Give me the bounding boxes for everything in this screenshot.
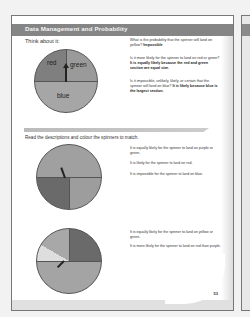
page-title: Data Management and Probability xyxy=(25,25,127,32)
statement: It is impossible for the spinner to land… xyxy=(130,172,222,177)
question-1: What is the probability that the spinner… xyxy=(130,38,222,48)
page-footer xyxy=(12,300,233,310)
spinner-to-colour-2[interactable] xyxy=(36,228,102,294)
spinner-to-colour-1[interactable] xyxy=(36,144,102,210)
workbook-page: Data Management and Probability Think ab… xyxy=(11,15,234,311)
section-label-blue: blue xyxy=(57,92,69,99)
question-3: Is it impossible, unlikely, likely, or c… xyxy=(130,79,222,94)
instruction: Read the descriptions and colour the spi… xyxy=(25,135,139,140)
think-prompt: Think about it: xyxy=(25,38,60,44)
spinner-arrow-icon xyxy=(65,66,67,82)
statement: It is more likely for the spinner to lan… xyxy=(130,244,222,249)
statement: It is equally likely for the spinner to … xyxy=(130,230,222,240)
page-header: Data Management and Probability xyxy=(12,24,233,36)
question-2: Is it more likely for the spinner to lan… xyxy=(130,56,222,71)
section-label-red: red xyxy=(47,59,56,66)
page-number: 53 xyxy=(214,291,218,296)
section-divider xyxy=(24,128,209,132)
statement: It is likely for the spinner to land on … xyxy=(130,161,222,166)
section-label-green: green xyxy=(70,61,87,68)
example-spinner: red green blue xyxy=(34,49,98,113)
corner-curve xyxy=(165,254,225,304)
next-page-edge xyxy=(241,15,250,311)
statement: It is equally likely for the spinner to … xyxy=(130,146,222,156)
